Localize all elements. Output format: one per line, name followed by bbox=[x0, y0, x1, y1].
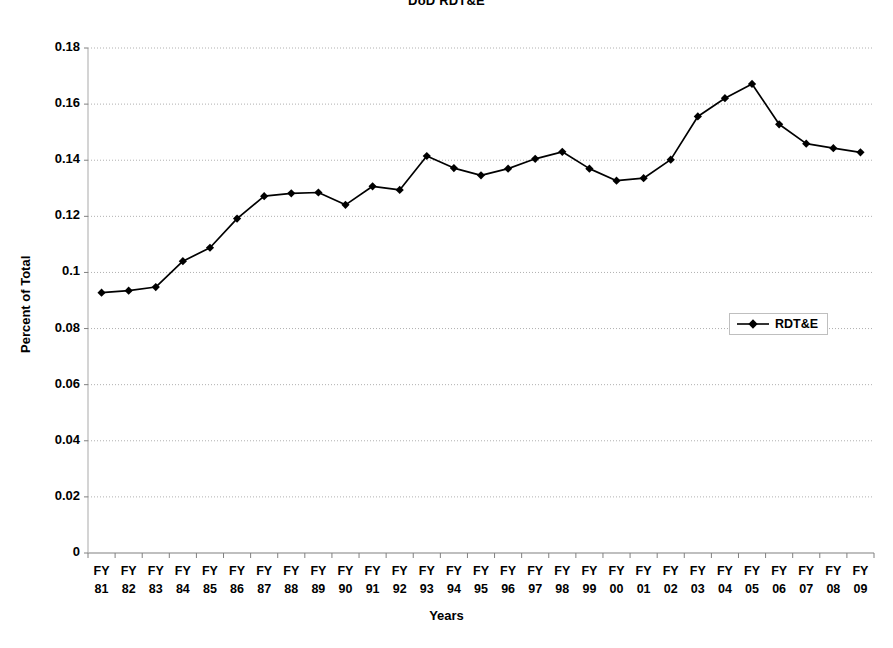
y-axis-tick-label: 0.08 bbox=[20, 320, 80, 335]
x-axis-tick-label-line: FY bbox=[843, 562, 877, 580]
series-line-RDT&E bbox=[102, 84, 861, 293]
chart-legend: RDT&E bbox=[729, 313, 828, 335]
y-axis-tick-label: 0.02 bbox=[20, 488, 80, 503]
y-axis-tick-label: 0 bbox=[20, 544, 80, 559]
legend-marker-icon bbox=[736, 318, 770, 330]
legend-item-label: RDT&E bbox=[775, 317, 818, 331]
data-point-marker bbox=[125, 287, 133, 295]
y-axis-tick-label: 0.18 bbox=[20, 39, 80, 54]
data-point-marker bbox=[612, 177, 620, 185]
y-axis-tick-label: 0.06 bbox=[20, 376, 80, 391]
data-point-marker bbox=[477, 171, 485, 179]
x-axis-tick-label-line: 09 bbox=[843, 580, 877, 598]
data-point-marker bbox=[585, 165, 593, 173]
data-point-marker bbox=[531, 155, 539, 163]
x-axis-tick-label: FY09 bbox=[843, 562, 877, 598]
x-axis-title: Years bbox=[0, 608, 893, 623]
y-axis-tick-label: 0.04 bbox=[20, 432, 80, 447]
data-point-marker bbox=[287, 189, 295, 197]
data-point-marker bbox=[97, 289, 105, 297]
y-axis-tick-label: 0.1 bbox=[20, 263, 80, 278]
data-point-marker bbox=[450, 164, 458, 172]
chart-container: DoD RDT&E Percent of Total Years RDT&E 0… bbox=[0, 0, 893, 648]
data-point-marker bbox=[504, 165, 512, 173]
y-axis-tick-label: 0.12 bbox=[20, 207, 80, 222]
data-point-marker bbox=[856, 148, 864, 156]
y-axis-tick-label: 0.14 bbox=[20, 151, 80, 166]
y-axis-tick-label: 0.16 bbox=[20, 95, 80, 110]
data-point-marker bbox=[314, 188, 322, 196]
data-point-marker bbox=[558, 148, 566, 156]
data-point-marker bbox=[829, 144, 837, 152]
